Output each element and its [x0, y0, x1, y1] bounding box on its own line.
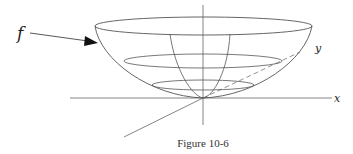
label-y: y	[314, 42, 322, 55]
y-axis-front	[124, 98, 203, 137]
label-x: x	[334, 92, 341, 105]
label-f: f	[15, 23, 26, 43]
pointer-arrowhead-icon	[84, 36, 98, 46]
rim-ellipse	[95, 17, 312, 35]
figure-caption: Figure 10-6	[177, 137, 229, 149]
cross-section-parabola	[170, 34, 230, 98]
y-axis-hidden	[203, 52, 300, 98]
figure-10-6-diagram: f y x Figure 10-6	[0, 0, 353, 154]
pointer-arrow-line	[30, 33, 88, 41]
